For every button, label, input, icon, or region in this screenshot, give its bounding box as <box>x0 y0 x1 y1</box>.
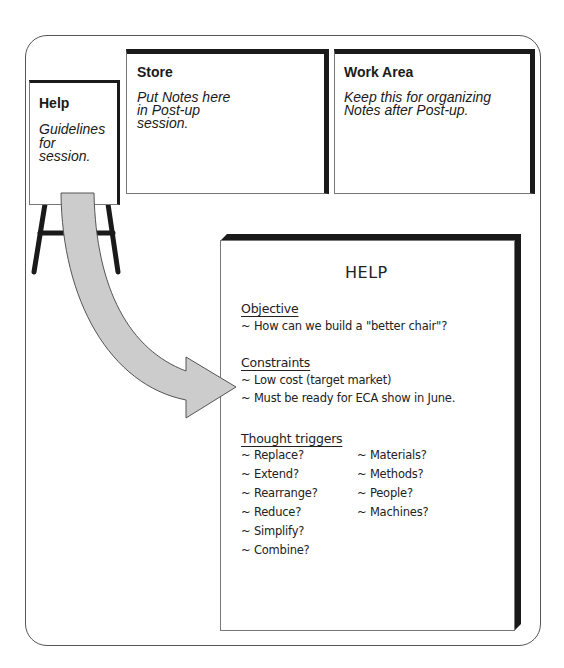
curved-arrow <box>0 0 564 668</box>
arrow-icon <box>61 193 236 418</box>
